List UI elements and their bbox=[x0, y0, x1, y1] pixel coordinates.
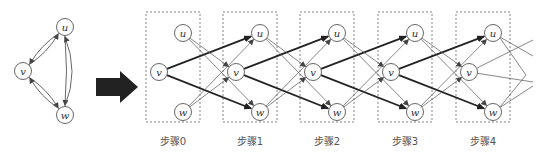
stage1-node-v: v bbox=[228, 64, 245, 81]
stage2-node-u: u bbox=[329, 25, 346, 42]
stage3-node-v: v bbox=[383, 64, 400, 81]
svg-text:v: v bbox=[156, 67, 162, 78]
svg-text:u: u bbox=[62, 22, 68, 33]
svg-text:u: u bbox=[412, 28, 418, 39]
svg-text:w: w bbox=[179, 107, 188, 118]
svg-text:u: u bbox=[334, 28, 340, 39]
svg-text:v: v bbox=[20, 66, 26, 77]
stage-label-0: 步骤0 bbox=[160, 133, 186, 148]
svg-text:w: w bbox=[256, 107, 265, 118]
stage0-node-w: w bbox=[175, 104, 192, 121]
stage1-node-u: u bbox=[252, 25, 269, 42]
stage1-node-w: w bbox=[252, 104, 269, 121]
stage-label-1: 步骤1 bbox=[237, 133, 263, 148]
source-graph: uvw bbox=[15, 19, 74, 124]
svg-text:w: w bbox=[333, 107, 342, 118]
stage4-node-u: u bbox=[485, 25, 502, 42]
stage0-node-u: u bbox=[175, 25, 192, 42]
stage2-node-w: w bbox=[329, 104, 346, 121]
svg-text:u: u bbox=[490, 28, 496, 39]
source-node-w: w bbox=[57, 107, 74, 124]
svg-text:u: u bbox=[180, 28, 186, 39]
unrolled-graph-diagram: uvw uvwuvwuvwuvwuvw bbox=[0, 0, 537, 156]
svg-text:w: w bbox=[411, 107, 420, 118]
stage3-node-u: u bbox=[407, 25, 424, 42]
source-node-v: v bbox=[15, 63, 32, 80]
stage-label-4: 步骤4 bbox=[470, 133, 496, 148]
source-node-u: u bbox=[57, 19, 74, 36]
unrolled-nodes: uvwuvwuvwuvwuvw bbox=[151, 25, 502, 121]
transform-arrow-icon bbox=[96, 71, 138, 103]
stage-label-3: 步骤3 bbox=[392, 133, 418, 148]
stage-label-2: 步骤2 bbox=[314, 133, 340, 148]
svg-text:v: v bbox=[310, 67, 316, 78]
svg-text:v: v bbox=[466, 67, 472, 78]
stage0-node-v: v bbox=[151, 64, 168, 81]
svg-text:w: w bbox=[61, 110, 70, 121]
svg-text:v: v bbox=[233, 67, 239, 78]
stage3-node-w: w bbox=[407, 104, 424, 121]
svg-text:w: w bbox=[489, 107, 498, 118]
unrolled-edges bbox=[167, 36, 533, 108]
stage4-node-v: v bbox=[461, 64, 478, 81]
stage2-node-v: v bbox=[305, 64, 322, 81]
svg-text:v: v bbox=[388, 67, 394, 78]
stage4-node-w: w bbox=[485, 104, 502, 121]
svg-text:u: u bbox=[257, 28, 263, 39]
